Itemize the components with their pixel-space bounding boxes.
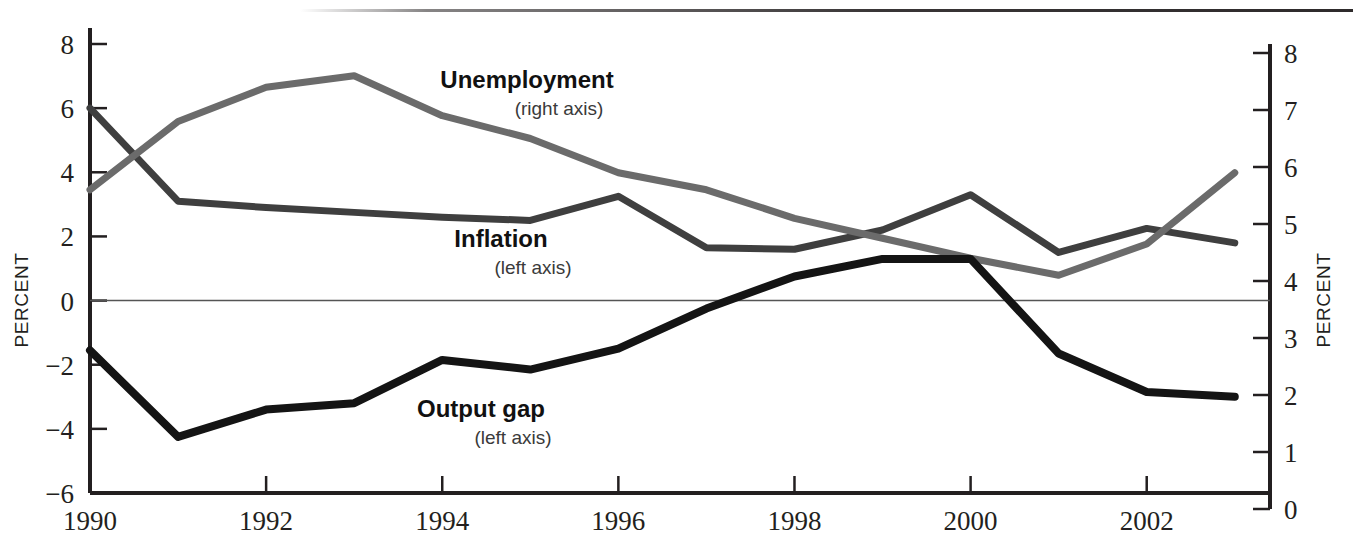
x-axis-tick-label: 2000 [944, 506, 998, 536]
left-axis: −6−4−202468 [45, 28, 107, 509]
right-axis-tick-label: 6 [1284, 153, 1298, 183]
left-axis-tick-label: −6 [45, 479, 74, 509]
right-axis-tick-label: 7 [1284, 96, 1298, 126]
series-sublabel-inflation: (left axis) [494, 257, 571, 278]
series-label-output-gap: Output gap [417, 395, 545, 422]
x-axis-tick-label: 1994 [415, 506, 470, 536]
left-axis-title: PERCENT [11, 253, 32, 348]
left-axis-tick-label: 0 [61, 287, 75, 317]
right-axis-tick-label: 1 [1284, 438, 1298, 468]
right-axis-tick-label: 3 [1284, 324, 1298, 354]
left-axis-tick-label: 8 [61, 30, 75, 60]
right-axis-tick-label: 4 [1284, 267, 1298, 297]
left-axis-tick-label: −2 [45, 351, 74, 381]
right-axis: 012345678 [1253, 39, 1298, 525]
x-axis-tick-label: 1990 [63, 506, 117, 536]
left-axis-tick-label: 2 [61, 222, 75, 252]
right-axis-tick-label: 0 [1284, 495, 1298, 525]
right-axis-tick-label: 5 [1284, 210, 1298, 240]
left-axis-tick-label: 6 [61, 94, 75, 124]
x-axis-tick-label: 1992 [239, 506, 293, 536]
series-line-output-gap [90, 259, 1235, 437]
series-annotations: Unemployment(right axis)Inflation(left a… [417, 66, 614, 448]
chart-figure: −6−4−202468 012345678 199019921994199619… [0, 0, 1353, 557]
line-chart-svg: −6−4−202468 012345678 199019921994199619… [0, 0, 1353, 557]
series-line-unemployment [90, 76, 1235, 275]
series-label-inflation: Inflation [454, 225, 547, 252]
x-axis: 1990199219941996199820002002 [63, 476, 1270, 536]
series-label-unemployment: Unemployment [440, 66, 613, 93]
right-axis-tick-label: 8 [1284, 39, 1298, 69]
series-sublabel-output-gap: (left axis) [474, 427, 551, 448]
x-axis-tick-label: 2002 [1120, 506, 1174, 536]
right-axis-title: PERCENT [1313, 253, 1334, 348]
right-axis-tick-label: 2 [1284, 381, 1298, 411]
x-axis-tick-label: 1998 [767, 506, 821, 536]
series-lines [90, 76, 1235, 437]
x-axis-tick-label: 1996 [591, 506, 645, 536]
left-axis-tick-label: −4 [45, 415, 74, 445]
series-sublabel-unemployment: (right axis) [515, 98, 604, 119]
left-axis-tick-label: 4 [61, 158, 75, 188]
